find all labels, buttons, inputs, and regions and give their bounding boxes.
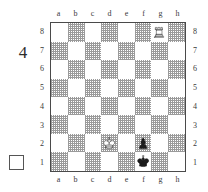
board-square-b6[interactable]	[68, 60, 85, 78]
board-square-b1[interactable]	[68, 152, 85, 170]
board-square-f1[interactable]	[135, 152, 152, 170]
rank-label: 6	[36, 60, 48, 79]
board-square-e8[interactable]	[118, 23, 135, 41]
board-grid	[51, 23, 184, 170]
board-square-g7[interactable]	[151, 42, 168, 60]
file-label: h	[169, 8, 186, 20]
board-square-b8[interactable]	[68, 23, 85, 41]
rank-label: 5	[189, 78, 201, 97]
board-square-a7[interactable]	[51, 42, 68, 60]
board-square-a6[interactable]	[51, 60, 68, 78]
file-label: c	[84, 174, 101, 186]
side-to-move-indicator	[9, 155, 24, 170]
board-square-f7[interactable]	[135, 42, 152, 60]
board-square-h7[interactable]	[168, 42, 185, 60]
rank-label: 1	[189, 153, 201, 172]
board-square-e1[interactable]	[118, 152, 135, 170]
file-labels-top: a b c d e f g h	[50, 8, 186, 20]
board-square-c6[interactable]	[85, 60, 102, 78]
board-square-c5[interactable]	[85, 79, 102, 97]
board-square-h4[interactable]	[168, 97, 185, 115]
board-square-d7[interactable]	[101, 42, 118, 60]
file-label: f	[135, 8, 152, 20]
board-square-g6[interactable]	[151, 60, 168, 78]
board-square-f4[interactable]	[135, 97, 152, 115]
board-square-d8[interactable]	[101, 23, 118, 41]
chess-board	[50, 22, 186, 172]
board-square-e3[interactable]	[118, 115, 135, 133]
board-square-h5[interactable]	[168, 79, 185, 97]
board-square-c7[interactable]	[85, 42, 102, 60]
file-label: e	[118, 8, 135, 20]
file-label: g	[152, 174, 169, 186]
rank-label: 3	[189, 116, 201, 135]
board-square-e6[interactable]	[118, 60, 135, 78]
board-square-c1[interactable]	[85, 152, 102, 170]
board-square-a4[interactable]	[51, 97, 68, 115]
board-square-f3[interactable]	[135, 115, 152, 133]
board-square-f6[interactable]	[135, 60, 152, 78]
board-square-h6[interactable]	[168, 60, 185, 78]
board-square-b4[interactable]	[68, 97, 85, 115]
black-king-piece[interactable]	[135, 152, 152, 170]
board-square-c3[interactable]	[85, 115, 102, 133]
board-square-c4[interactable]	[85, 97, 102, 115]
rank-labels-right: 8 7 6 5 4 3 2 1	[189, 22, 201, 172]
board-square-f2[interactable]	[135, 134, 152, 152]
board-square-d4[interactable]	[101, 97, 118, 115]
puzzle-number: 4	[12, 42, 34, 64]
rank-labels-left: 8 7 6 5 4 3 2 1	[36, 22, 48, 172]
rank-label: 4	[36, 97, 48, 116]
board-square-g3[interactable]	[151, 115, 168, 133]
black-pawn-piece[interactable]	[135, 133, 152, 151]
board-square-a2[interactable]	[51, 134, 68, 152]
board-square-d5[interactable]	[101, 79, 118, 97]
board-square-h3[interactable]	[168, 115, 185, 133]
board-square-c2[interactable]	[85, 134, 102, 152]
board-square-g5[interactable]	[151, 79, 168, 97]
chess-diagram: 4 a b c d e f g h a b c d e f g h 8 7 6 …	[0, 0, 208, 192]
board-square-e7[interactable]	[118, 42, 135, 60]
board-square-a1[interactable]	[51, 152, 68, 170]
white-king-piece[interactable]	[101, 133, 118, 151]
file-label: d	[101, 174, 118, 186]
board-square-h1[interactable]	[168, 152, 185, 170]
board-square-b5[interactable]	[68, 79, 85, 97]
board-square-h2[interactable]	[168, 134, 185, 152]
file-label: d	[101, 8, 118, 20]
rank-label: 2	[36, 135, 48, 154]
rank-label: 6	[189, 60, 201, 79]
file-label: b	[67, 174, 84, 186]
file-label: c	[84, 8, 101, 20]
rank-label: 2	[189, 135, 201, 154]
file-label: e	[118, 174, 135, 186]
board-square-a5[interactable]	[51, 79, 68, 97]
board-square-c8[interactable]	[85, 23, 102, 41]
white-rook-piece[interactable]	[151, 23, 168, 41]
board-square-d6[interactable]	[101, 60, 118, 78]
board-square-g2[interactable]	[151, 134, 168, 152]
board-square-d3[interactable]	[101, 115, 118, 133]
board-square-h8[interactable]	[168, 23, 185, 41]
board-square-e4[interactable]	[118, 97, 135, 115]
board-square-g1[interactable]	[151, 152, 168, 170]
rank-label: 7	[189, 41, 201, 60]
board-square-a3[interactable]	[51, 115, 68, 133]
rank-label: 4	[189, 97, 201, 116]
board-square-b7[interactable]	[68, 42, 85, 60]
board-square-e5[interactable]	[118, 79, 135, 97]
board-square-g4[interactable]	[151, 97, 168, 115]
file-label: f	[135, 174, 152, 186]
board-square-d1[interactable]	[101, 152, 118, 170]
board-square-b2[interactable]	[68, 134, 85, 152]
file-label: a	[50, 8, 67, 20]
file-label: h	[169, 174, 186, 186]
board-square-e2[interactable]	[118, 134, 135, 152]
board-square-a8[interactable]	[51, 23, 68, 41]
board-square-d2[interactable]	[101, 134, 118, 152]
board-square-g8[interactable]	[151, 23, 168, 41]
board-square-f8[interactable]	[135, 23, 152, 41]
board-square-b3[interactable]	[68, 115, 85, 133]
board-square-f5[interactable]	[135, 79, 152, 97]
file-label: b	[67, 8, 84, 20]
